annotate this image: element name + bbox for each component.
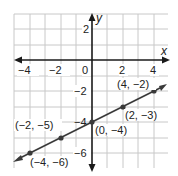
data-point <box>89 119 94 124</box>
x-tick-label: 2 <box>119 64 125 76</box>
x-axis-label: x <box>160 44 168 58</box>
x-tick-label: 4 <box>150 64 156 76</box>
y-axis-label: y <box>95 11 103 25</box>
point-label: (−2, −5) <box>15 119 54 131</box>
point-label: (2, −3) <box>125 109 157 121</box>
point-label: (−4, −6) <box>30 156 69 168</box>
point-label: (4, −2) <box>117 78 149 90</box>
y-tick-label: −2 <box>74 85 87 97</box>
y-tick-label: 2 <box>83 23 89 35</box>
x-axis-left-arrow-icon <box>14 57 22 64</box>
x-tick-label: −4 <box>18 64 31 76</box>
y-axis-down-arrow-icon <box>89 164 96 172</box>
x-tick-label: −2 <box>49 64 62 76</box>
coordinate-plane: x y −4 −2 0 2 4 2 −2 −4 −6 <box>0 0 178 176</box>
line-end-arrow-icon <box>159 84 167 91</box>
data-point <box>58 135 63 140</box>
data-point <box>27 150 32 155</box>
point-label: (0, −4) <box>95 124 127 136</box>
x-tick-label: 0 <box>82 64 88 76</box>
